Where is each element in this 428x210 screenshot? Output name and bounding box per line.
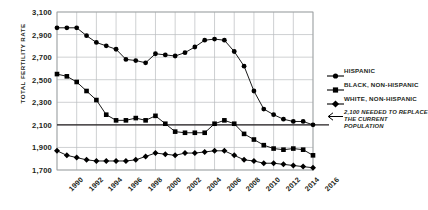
reference-note-line-2: THE CURRENT POPULATION xyxy=(344,116,428,131)
data-point xyxy=(261,143,266,148)
data-point xyxy=(84,157,90,163)
data-point xyxy=(290,162,296,168)
data-point xyxy=(64,25,69,30)
data-point xyxy=(173,129,178,134)
data-point xyxy=(143,60,148,65)
circle-marker-icon xyxy=(327,66,344,74)
reference-note-line-1: 2,100 NEEDED TO REPLACE xyxy=(344,109,428,116)
data-point xyxy=(94,40,99,45)
data-point xyxy=(301,147,306,152)
data-point xyxy=(143,153,149,159)
data-point xyxy=(55,25,60,30)
data-point xyxy=(104,43,109,48)
data-point xyxy=(94,98,99,103)
data-point xyxy=(183,130,188,135)
data-point xyxy=(153,114,158,119)
data-point xyxy=(271,146,276,151)
data-point xyxy=(103,158,109,164)
data-point xyxy=(84,33,89,38)
data-point xyxy=(54,148,60,154)
reference-line-annotation: 2,100 NEEDED TO REPLACE THE CURRENT POPU… xyxy=(327,109,428,131)
data-point xyxy=(251,158,257,164)
data-point xyxy=(133,157,139,163)
data-point xyxy=(124,118,129,123)
data-point xyxy=(232,49,237,54)
data-point xyxy=(281,117,286,122)
data-point xyxy=(153,51,158,56)
data-point xyxy=(113,158,119,164)
data-point xyxy=(281,147,286,152)
data-point xyxy=(124,57,129,62)
data-point xyxy=(193,130,198,135)
data-point xyxy=(172,152,178,158)
data-point xyxy=(202,149,208,155)
data-point xyxy=(311,122,316,127)
data-point xyxy=(192,45,197,50)
data-point xyxy=(162,151,168,157)
data-point xyxy=(123,158,129,164)
data-point xyxy=(114,47,119,52)
data-point xyxy=(232,121,237,126)
diamond-marker-icon xyxy=(327,94,344,102)
chart-legend: HISPANIC BLACK, NON-HISPANIC WHITE, NON-… xyxy=(327,66,428,131)
data-point xyxy=(143,118,148,123)
data-point xyxy=(74,25,79,30)
data-point xyxy=(241,157,247,163)
data-point xyxy=(222,118,227,123)
data-point xyxy=(202,38,207,43)
data-point xyxy=(192,150,198,156)
data-point xyxy=(280,161,286,167)
data-point xyxy=(182,150,188,156)
data-point xyxy=(212,148,218,154)
data-point xyxy=(222,38,227,43)
data-point xyxy=(114,118,119,123)
data-point xyxy=(163,121,168,126)
data-point xyxy=(55,72,60,77)
square-marker-icon xyxy=(327,80,344,88)
data-point xyxy=(252,89,257,94)
data-point xyxy=(221,148,227,154)
data-point xyxy=(261,160,267,166)
legend-item-black-non-hispanic[interactable]: BLACK, NON-HISPANIC xyxy=(327,80,428,88)
data-point xyxy=(311,153,316,158)
legend-label: WHITE, NON-HISPANIC xyxy=(344,95,417,102)
data-point xyxy=(300,164,306,170)
data-point xyxy=(183,50,188,55)
data-point xyxy=(133,116,138,121)
data-point xyxy=(271,112,276,117)
data-point xyxy=(93,158,99,164)
legend-item-hispanic[interactable]: HISPANIC xyxy=(327,66,428,74)
arrow-left-icon xyxy=(327,109,344,123)
data-point xyxy=(212,37,217,42)
data-point xyxy=(65,74,70,79)
legend-label: HISPANIC xyxy=(344,67,375,74)
data-point xyxy=(212,121,217,126)
chart-container: TOTAL FERTILITY RATE 3,1002,9002,7002,50… xyxy=(0,0,428,210)
data-point xyxy=(74,155,80,161)
legend-item-white-non-hispanic[interactable]: WHITE, NON-HISPANIC xyxy=(327,94,428,102)
data-point xyxy=(84,89,89,94)
data-point xyxy=(64,152,70,158)
data-point xyxy=(291,146,296,151)
data-point xyxy=(133,58,138,63)
data-point xyxy=(242,132,247,137)
data-point xyxy=(291,119,296,124)
legend-label: BLACK, NON-HISPANIC xyxy=(344,81,419,88)
data-point xyxy=(163,52,168,57)
data-point xyxy=(271,160,277,166)
data-point xyxy=(252,137,257,142)
data-point xyxy=(152,150,158,156)
data-point xyxy=(242,64,247,69)
data-point xyxy=(231,152,237,158)
data-point xyxy=(261,107,266,112)
reference-line-note: 2,100 NEEDED TO REPLACE THE CURRENT POPU… xyxy=(344,109,428,131)
data-point xyxy=(173,54,178,59)
data-point xyxy=(301,119,306,124)
data-point xyxy=(104,112,109,117)
data-point xyxy=(202,130,207,135)
data-point xyxy=(74,80,79,85)
